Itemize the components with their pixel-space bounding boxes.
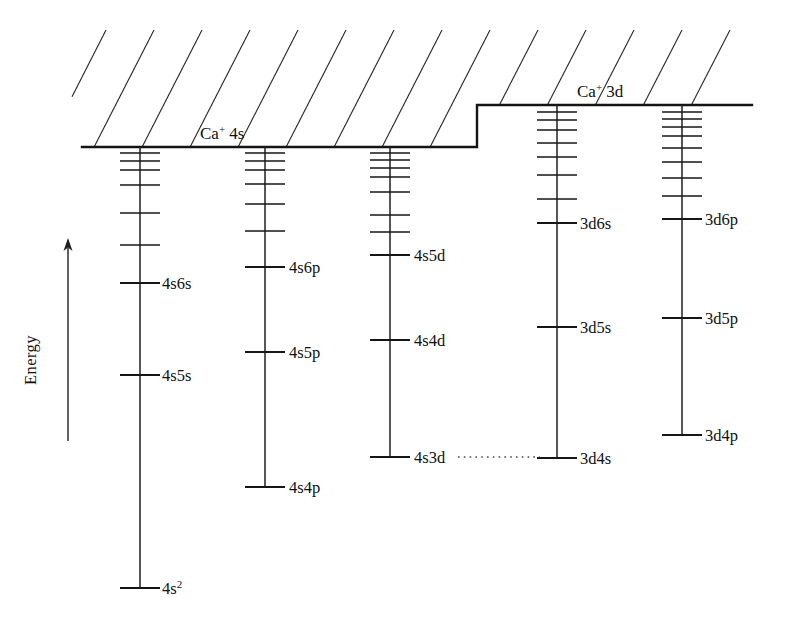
energy-axis: Energy [21, 238, 73, 441]
level-label-4s6p: 4s6p [289, 258, 320, 277]
hatch-stroke [382, 30, 442, 147]
level-series-group: 4s6s4s5s4s24s6p4s5p4s4p4s5d4s4d4s3d3d6s3… [120, 105, 738, 598]
hatch-stroke [499, 30, 538, 105]
level-label-4s5s: 4s5s [162, 366, 191, 385]
hatch-stroke [286, 30, 346, 147]
level-label-4s4d: 4s4d [414, 331, 446, 350]
ionization-limit-lines [82, 105, 752, 147]
limit-label-ca-plus-3d: Ca+ 3d [577, 81, 624, 101]
level-label-4ssq: 4s2 [162, 578, 182, 598]
level-label-4s3d: 4s3d [414, 448, 446, 467]
level-label-4s5d: 4s5d [414, 246, 446, 265]
level-label-4s5p: 4s5p [289, 343, 320, 362]
energy-axis-label: Energy [21, 335, 40, 385]
ionization-limit-staircase [82, 105, 752, 147]
hatch-stroke [691, 30, 730, 105]
level-label-3d6s: 3d6s [580, 214, 611, 233]
level-series-column-3: 4s5d4s4d4s3d [370, 147, 446, 467]
level-label-3d4s: 3d4s [580, 449, 611, 468]
level-label-4s6s: 4s6s [162, 274, 191, 293]
level-series-column-4: 3d6s3d5s3d4s [537, 105, 611, 468]
hatch-stroke [94, 30, 154, 147]
hatch-stroke [142, 30, 202, 147]
level-series-column-2: 4s6p4s5p4s4p [245, 147, 320, 497]
hatch-stroke [72, 30, 106, 97]
diagram-canvas: 4s6s4s5s4s24s6p4s5p4s4p4s5d4s4d4s3d3d6s3… [0, 0, 789, 623]
level-label-4s4p: 4s4p [289, 478, 320, 497]
energy-level-diagram: 4s6s4s5s4s24s6p4s5p4s4p4s5d4s4d4s3d3d6s3… [0, 0, 789, 623]
level-series-column-1: 4s6s4s5s4s2 [120, 147, 191, 598]
level-label-3d5p: 3d5p [705, 309, 738, 328]
hatch-stroke [238, 30, 298, 147]
limit-label-ca-plus-4s: Ca+ 4s [200, 123, 244, 143]
continuum-hatching [72, 30, 730, 147]
level-series-column-5: 3d6p3d5p3d4p [662, 105, 738, 445]
hatch-stroke [643, 30, 682, 105]
hatch-stroke [430, 30, 490, 147]
level-label-3d4p: 3d4p [705, 426, 738, 445]
level-label-3d6p: 3d6p [705, 210, 738, 229]
level-label-3d5s: 3d5s [580, 318, 611, 337]
hatch-stroke [334, 30, 394, 147]
